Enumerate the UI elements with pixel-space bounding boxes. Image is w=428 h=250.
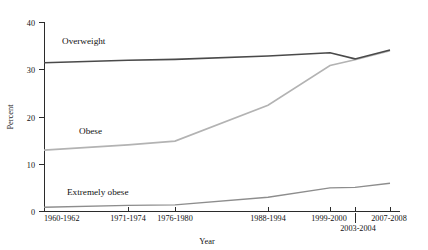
x-tick-label: 1999-2000	[311, 214, 346, 223]
series-label-overweight: Overweight	[62, 36, 106, 46]
y-tick-label: 0	[31, 208, 35, 217]
y-tick-label: 30	[27, 66, 35, 75]
series-label-obese: Obese	[79, 126, 102, 136]
y-tick-label: 40	[27, 19, 35, 28]
x-axis-title: Year	[199, 237, 215, 246]
y-axis-ticks	[39, 23, 45, 212]
x-tick-label: 1960-1962	[44, 214, 79, 223]
y-tick-label: 20	[27, 114, 35, 123]
x-tick-label: 2007-2008	[371, 214, 406, 223]
y-axis-title: Percent	[6, 104, 15, 130]
x-tick-label: 1971-1974	[110, 214, 145, 223]
y-axis-tick-labels: 40 30 20 10 0	[27, 19, 35, 217]
chart-figure: 40 30 20 10 0 Percent 1960-1962 1971-197…	[0, 0, 428, 250]
x-tick-label: 1976-1980	[157, 214, 192, 223]
x-axis-tick-labels: 1960-1962 1971-1974 1976-1980 1988-1994 …	[44, 214, 407, 233]
series-line-overweight	[44, 50, 390, 63]
line-chart-svg: 40 30 20 10 0 Percent 1960-1962 1971-197…	[0, 0, 428, 250]
y-tick-label: 10	[27, 161, 35, 170]
x-tick-label: 2003-2004	[340, 224, 375, 233]
x-tick-label: 1988-1994	[250, 214, 285, 223]
x-axis-ticks	[45, 207, 391, 212]
series-label-extremely-obese: Extremely obese	[67, 187, 128, 197]
